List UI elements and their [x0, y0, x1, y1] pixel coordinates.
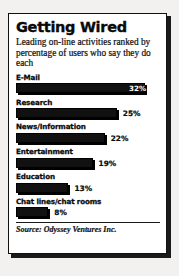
- bar-row: Education13%: [16, 173, 159, 194]
- bar-category-label: E-Mail: [16, 74, 159, 82]
- bar-category-label: Research: [16, 99, 159, 107]
- chart-subtitle: Leading on-line activities ranked by per…: [16, 37, 156, 69]
- bar-row: E-Mail32%: [16, 74, 159, 95]
- bar-value-label: 8%: [54, 208, 67, 217]
- bar: [16, 158, 93, 168]
- source-note: Source: Odyssey Ventures Inc.: [16, 225, 159, 234]
- bar: [16, 207, 48, 217]
- bar-track: 8%: [16, 207, 159, 218]
- bar-value-label: 19%: [99, 159, 117, 168]
- bar-value-label: 32%: [129, 85, 146, 93]
- bar-chart: E-Mail32%Research25%News/Information22%E…: [16, 74, 159, 219]
- bar-row: Entertainment19%: [16, 148, 159, 169]
- bar-row: News/Information22%: [16, 123, 159, 144]
- bar: [16, 133, 105, 143]
- bar-value-label: 13%: [74, 184, 92, 193]
- bar-category-label: News/Information: [16, 123, 159, 131]
- bar-value-label: 25%: [123, 109, 141, 118]
- bar-row: Chat lines/chat rooms8%: [16, 198, 159, 219]
- source-divider: [16, 222, 160, 223]
- bar-value-label: 22%: [111, 134, 129, 143]
- bar-track: 19%: [16, 158, 159, 169]
- bar-row: Research25%: [16, 99, 159, 120]
- bar-track: 22%: [16, 133, 159, 144]
- bar: [16, 108, 117, 118]
- figure-container: Getting Wired Leading on-line activities…: [0, 0, 179, 276]
- card-inner: Getting Wired Leading on-line activities…: [9, 14, 166, 234]
- bar-track: 13%: [16, 183, 159, 194]
- bar-track: 25%: [16, 108, 159, 119]
- page-title: Getting Wired: [16, 20, 159, 35]
- bar: [16, 83, 145, 93]
- chart-card: Getting Wired Leading on-line activities…: [8, 13, 167, 254]
- bar-category-label: Education: [16, 173, 159, 181]
- bar-track: 32%: [16, 83, 159, 94]
- bar-category-label: Entertainment: [16, 148, 159, 156]
- bar: [16, 183, 68, 193]
- bar-category-label: Chat lines/chat rooms: [16, 198, 159, 206]
